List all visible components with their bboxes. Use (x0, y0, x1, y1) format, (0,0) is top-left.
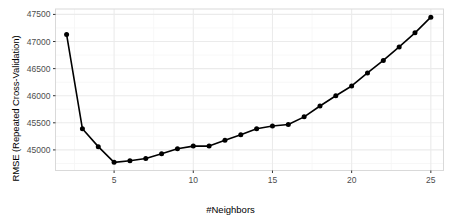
chart-container: RMSE (Repeated Cross-Validation) 4500045… (0, 0, 461, 217)
data-point (428, 15, 433, 20)
data-point (397, 44, 402, 49)
data-point (238, 132, 243, 137)
data-point (412, 30, 417, 35)
data-point (96, 144, 101, 149)
data-point (80, 126, 85, 131)
data-point (222, 138, 227, 143)
data-point (159, 151, 164, 156)
data-point (127, 158, 132, 163)
data-point (207, 144, 212, 149)
data-point (64, 32, 69, 37)
data-point (143, 156, 148, 161)
x-axis-title: #Neighbors (0, 204, 461, 215)
data-point (381, 58, 386, 63)
data-point (349, 83, 354, 88)
data-point (302, 114, 307, 119)
data-point (254, 126, 259, 131)
plot-area (0, 0, 461, 217)
data-point (317, 104, 322, 109)
data-point (191, 144, 196, 149)
data-point (175, 146, 180, 151)
data-point (286, 122, 291, 127)
data-point (365, 70, 370, 75)
data-point (333, 93, 338, 98)
data-point (112, 160, 117, 165)
data-point (270, 124, 275, 129)
